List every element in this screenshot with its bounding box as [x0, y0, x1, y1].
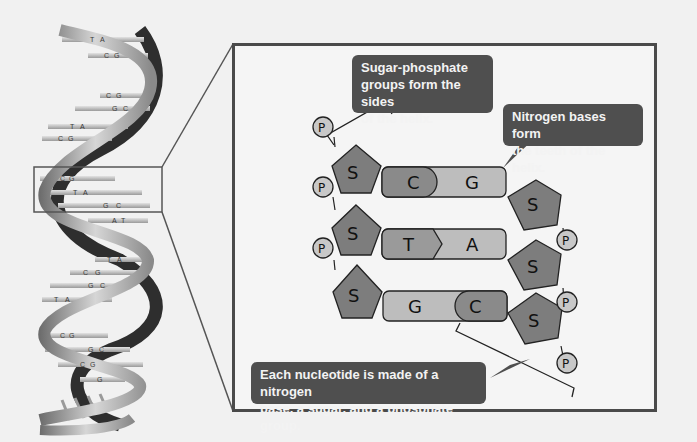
sugar-label: S — [528, 310, 539, 331]
base-label: C — [469, 296, 482, 317]
callout-line: of the helix. — [361, 110, 484, 127]
callout-line: base, a sugar, and a phosphate group. — [260, 400, 477, 434]
callout-line: Nitrogen bases form — [512, 108, 634, 142]
callout-nitrogen-bases: Nitrogen bases form the teeth of the hel… — [503, 104, 643, 146]
callout-sugar-phosphate: Sugar-phosphate groups form the sides of… — [352, 55, 493, 113]
base-label: C — [407, 172, 420, 193]
phosphate-label: P — [562, 234, 569, 248]
callout-pointer — [490, 359, 530, 378]
dna-diagram: T A C G C G G C T A C G C G T A G C A T … — [0, 0, 697, 442]
base-label: G — [465, 172, 479, 193]
sugar-label: S — [348, 285, 359, 306]
phosphate-label: P — [318, 181, 325, 195]
callout-line: the teeth of the helix. — [512, 142, 634, 176]
sugar-label: S — [527, 256, 538, 277]
base-label: T — [402, 234, 415, 255]
sugar-label: S — [527, 194, 538, 215]
callout-nucleotide: Each nucleotide is made of a nitrogen ba… — [251, 362, 486, 404]
sugar-label: S — [347, 223, 358, 244]
base-label: G — [408, 296, 422, 317]
callout-line: groups form the sides — [361, 76, 484, 110]
phosphate-label: P — [318, 121, 325, 135]
callout-line: Sugar-phosphate — [361, 59, 484, 76]
phosphate-label: P — [562, 296, 569, 310]
sugar-label: S — [347, 162, 358, 183]
phosphate-label: P — [318, 242, 325, 256]
callout-line: Each nucleotide is made of a nitrogen — [260, 366, 477, 400]
base-label: A — [466, 234, 479, 255]
phosphate-label: P — [562, 357, 569, 371]
